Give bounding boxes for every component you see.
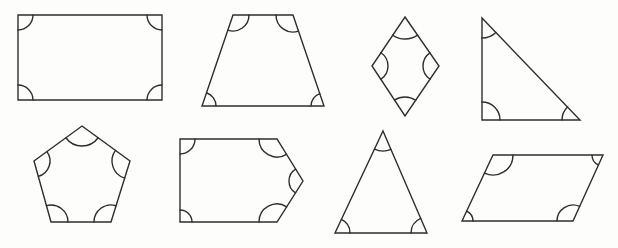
angle-arc (341, 219, 350, 233)
arrow-pentagon-shape (180, 139, 303, 222)
angle-arc (228, 15, 249, 31)
angle-arc (311, 94, 320, 106)
angle-arc (18, 85, 33, 100)
angle-arc (381, 53, 388, 80)
trapezoid-outline (202, 15, 324, 106)
angle-arc (482, 32, 496, 38)
pentagon-outline (34, 126, 130, 222)
trapezoid-shape (202, 15, 324, 106)
angle-arc (289, 169, 296, 193)
angle-arc (411, 218, 421, 233)
angle-arc (66, 138, 98, 146)
angle-arc (393, 35, 418, 39)
angle-arc (18, 15, 33, 30)
angle-arc (112, 150, 125, 178)
arrow-pentagon-outline (180, 139, 303, 222)
parallelogram-shape (462, 155, 603, 221)
angle-arc (423, 53, 430, 79)
rectangle-outline (18, 15, 162, 100)
angle-arc (562, 107, 568, 120)
angle-arc (180, 210, 192, 222)
pentagon-shape (34, 126, 130, 222)
angle-arc (467, 211, 473, 221)
isosceles-triangle-shape (335, 131, 427, 233)
angle-arc (395, 97, 416, 100)
angle-arc (180, 139, 195, 154)
geometry-diagram (0, 0, 618, 248)
angle-arc (592, 155, 598, 165)
angle-arc (147, 85, 162, 100)
angle-arc (276, 15, 298, 32)
rhombus-shape (372, 17, 439, 116)
angle-arc (374, 149, 390, 151)
right-triangle-outline (482, 18, 580, 120)
parallelogram-outline (462, 155, 603, 221)
angle-arc (482, 102, 500, 120)
rhombus-outline (372, 17, 439, 116)
angle-arc (94, 205, 116, 222)
isosceles-triangle-outline (335, 131, 427, 233)
shapes-canvas (0, 0, 618, 248)
angle-arc (147, 15, 162, 30)
angle-arc (38, 152, 50, 177)
right-triangle-shape (482, 18, 580, 120)
angle-arc (207, 93, 216, 106)
rectangle-shape (18, 15, 162, 100)
